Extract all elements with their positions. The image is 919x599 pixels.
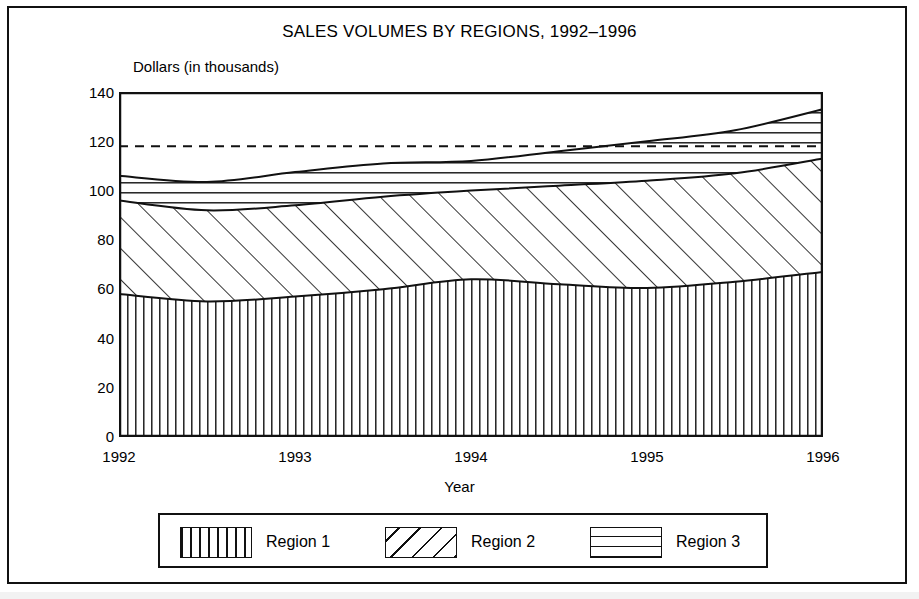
x-tick-label-1992: 1992 (74, 449, 164, 464)
x-tick-label-1995: 1995 (602, 449, 692, 464)
legend-label-region-3: Region 3 (676, 533, 740, 551)
x-tick-label-1993: 1993 (250, 449, 340, 464)
stacked-area-plot (119, 92, 823, 437)
legend-swatch-region-2-diagonal-lines (385, 527, 457, 558)
legend-entry-region-1: Region 1 (180, 526, 330, 558)
plot-area (119, 92, 823, 437)
x-tick-label-1994: 1994 (426, 449, 516, 464)
figure-container: SALES VOLUMES BY REGIONS, 1992–1996 Doll… (0, 0, 919, 599)
legend-entry-region-3: Region 3 (590, 526, 740, 558)
legend-swatch-region-3-horizontal-lines (590, 527, 662, 558)
legend-swatch-region-1-vertical-lines (180, 527, 252, 558)
legend-label-region-2: Region 2 (471, 533, 535, 551)
y-tick-label-60: 60 (62, 281, 114, 296)
scan-edge-shading (0, 592, 919, 599)
y-tick-label-20: 20 (62, 380, 114, 395)
y-tick-label-0: 0 (62, 429, 114, 444)
legend-entry-region-2: Region 2 (385, 526, 535, 558)
legend-label-region-1: Region 1 (266, 533, 330, 551)
y-tick-label-100: 100 (62, 183, 114, 198)
legend: Region 1 Region 2 Region 3 (158, 513, 768, 568)
y-tick-label-140: 140 (62, 85, 114, 100)
y-tick-label-40: 40 (62, 331, 114, 346)
x-axis-title: Year (0, 478, 919, 495)
y-axis-title: Dollars (in thousands) (133, 58, 279, 75)
x-tick-label-1996: 1996 (778, 449, 868, 464)
y-tick-label-80: 80 (62, 232, 114, 247)
chart-title: SALES VOLUMES BY REGIONS, 1992–1996 (0, 22, 919, 42)
y-tick-label-120: 120 (62, 134, 114, 149)
